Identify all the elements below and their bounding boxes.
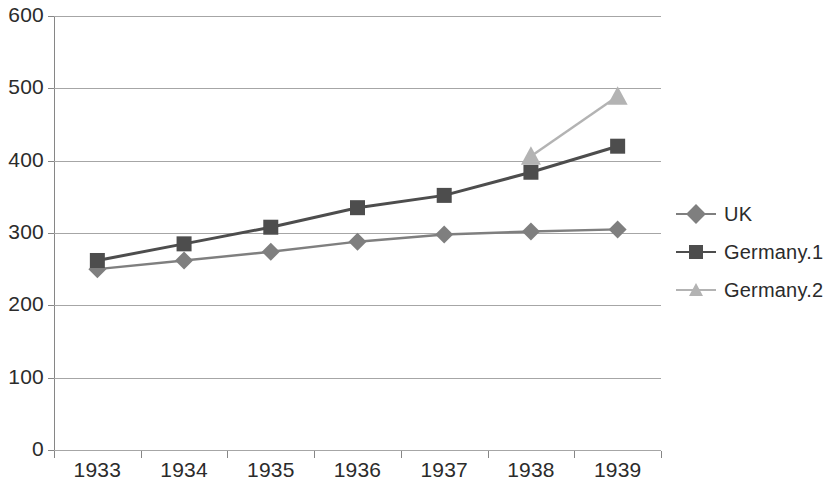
diamond-data-marker xyxy=(522,223,540,241)
series-germany-1 xyxy=(90,139,625,268)
square-marker-icon xyxy=(676,241,716,263)
square-data-marker xyxy=(523,165,538,180)
x-axis-tick xyxy=(227,451,228,458)
gridline xyxy=(54,233,661,234)
x-axis-tick xyxy=(401,451,402,458)
diamond-data-marker xyxy=(435,225,453,243)
gridline xyxy=(54,88,661,89)
y-axis-tick-label: 400 xyxy=(8,148,44,172)
y-axis-tick-label: 500 xyxy=(8,75,44,99)
y-axis-tick xyxy=(48,305,54,306)
legend-item-uk[interactable]: UK xyxy=(676,195,819,233)
diamond-data-marker xyxy=(349,233,367,251)
x-axis-tick-label: 1937 xyxy=(394,458,494,481)
series-line xyxy=(97,146,617,260)
y-axis-tick xyxy=(48,88,54,89)
x-axis-tick xyxy=(54,451,55,458)
gridline xyxy=(54,305,661,306)
legend-item-germany-1[interactable]: Germany.1 xyxy=(676,233,819,271)
series-uk xyxy=(88,220,626,278)
x-axis-tick xyxy=(314,451,315,458)
y-axis-tick-label: 200 xyxy=(8,292,44,316)
gridline xyxy=(54,450,661,451)
y-axis-tick xyxy=(48,16,54,17)
legend-item-germany-2[interactable]: Germany.2 xyxy=(676,271,819,309)
y-axis-tick-label: 0 xyxy=(32,437,44,461)
x-axis-tick xyxy=(661,451,662,458)
diamond-marker-icon xyxy=(676,203,716,225)
y-axis-tick-label: 600 xyxy=(8,3,44,27)
y-axis-tick xyxy=(48,233,54,234)
square-data-marker xyxy=(437,188,452,203)
legend-marker xyxy=(689,245,703,259)
y-axis-tick-label: 300 xyxy=(8,220,44,244)
diamond-data-marker xyxy=(262,243,280,261)
triangle-marker-icon xyxy=(676,279,716,301)
x-axis-tick-label: 1935 xyxy=(221,458,321,481)
series-line xyxy=(531,96,618,156)
triangle-data-marker xyxy=(521,146,541,165)
x-axis-tick-label: 1939 xyxy=(568,458,668,481)
triangle-data-marker xyxy=(608,86,628,105)
y-axis-tick-label: 100 xyxy=(8,365,44,389)
x-axis-tick xyxy=(488,451,489,458)
gridline xyxy=(54,378,661,379)
gridline xyxy=(54,161,661,162)
diamond-data-marker xyxy=(175,251,193,269)
legend-marker xyxy=(686,204,706,224)
legend-item-label: UK xyxy=(724,203,752,226)
square-data-marker xyxy=(177,236,192,251)
x-axis-tick-label: 1938 xyxy=(481,458,581,481)
legend-item-label: Germany.2 xyxy=(724,279,823,302)
x-axis-tick-label: 1933 xyxy=(47,458,147,481)
x-axis-tick xyxy=(141,451,142,458)
gridline xyxy=(54,16,661,17)
diamond-data-marker xyxy=(88,260,106,278)
y-axis-tick xyxy=(48,161,54,162)
square-data-marker xyxy=(610,139,625,154)
legend-marker xyxy=(689,283,703,296)
series-line xyxy=(97,229,617,269)
x-axis-tick xyxy=(574,451,575,458)
x-axis-tick-label: 1936 xyxy=(308,458,408,481)
x-axis-tick-label: 1934 xyxy=(134,458,234,481)
square-data-marker xyxy=(350,200,365,215)
legend-item-label: Germany.1 xyxy=(724,241,823,264)
y-axis-tick xyxy=(48,378,54,379)
chart-legend: UK Germany.1 Germany.2 xyxy=(676,195,819,309)
diamond-data-marker xyxy=(609,220,627,238)
series-germany-2 xyxy=(521,86,628,165)
square-data-marker xyxy=(90,253,105,268)
